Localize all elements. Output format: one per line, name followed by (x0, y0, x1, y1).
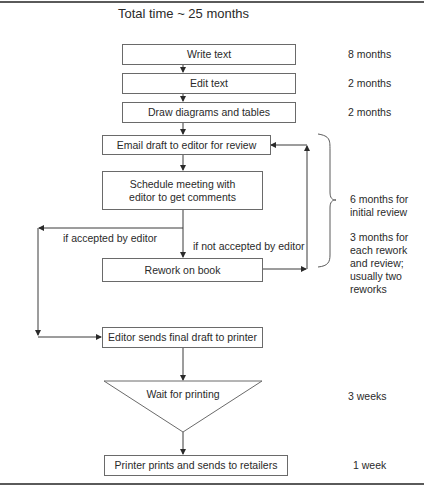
step-label: Schedule meeting with editor to get comm… (117, 178, 248, 204)
duration-write-text: 8 months (348, 48, 391, 61)
step-wait-printing: Wait for printing (123, 388, 243, 400)
step-schedule-meeting: Schedule meeting with editor to get comm… (102, 171, 263, 210)
duration-printer-prints: 1 week (353, 459, 386, 472)
duration-draw-diagrams: 2 months (348, 106, 391, 119)
duration-wait-printing: 3 weeks (348, 390, 387, 403)
step-rework-book: Rework on book (102, 258, 263, 282)
step-label: Edit text (190, 77, 228, 90)
branch-label-accepted: if accepted by editor (63, 232, 157, 244)
step-label: Printer prints and sends to retailers (115, 459, 278, 472)
step-label: Draw diagrams and tables (148, 106, 270, 119)
step-label: Email draft to editor for review (117, 139, 256, 152)
step-printer-prints: Printer prints and sends to retailers (104, 455, 288, 476)
step-label: Rework on book (145, 264, 221, 277)
duration-edit-text: 2 months (348, 77, 391, 90)
step-final-draft: Editor sends final draft to printer (102, 327, 263, 348)
step-draw-diagrams: Draw diagrams and tables (122, 102, 296, 123)
step-write-text: Write text (122, 44, 296, 65)
branch-label-not-accepted: if not accepted by editor (193, 240, 305, 252)
review-note-rework: 3 months for each rework and review; usu… (350, 231, 420, 296)
step-edit-text: Edit text (122, 73, 296, 94)
step-label: Editor sends final draft to printer (108, 331, 257, 344)
review-note-initial: 6 months for initial review (350, 193, 420, 219)
step-label: Write text (187, 48, 231, 61)
bottom-rule (0, 483, 424, 485)
step-email-draft: Email draft to editor for review (102, 135, 271, 155)
